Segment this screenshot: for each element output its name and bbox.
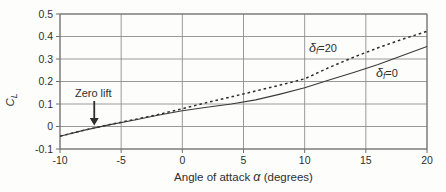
y-tick-label: 0 (47, 120, 53, 132)
y-tick-label: 0.5 (38, 8, 53, 20)
x-tick-label: 10 (299, 154, 311, 166)
y-tick-label: 0.2 (38, 75, 53, 87)
lift-curve-chart: -0.100.10.20.30.40.5-10-505101520δf=20δf… (0, 0, 446, 192)
y-tick-label: 0.1 (38, 98, 53, 110)
x-tick-label: 20 (421, 154, 433, 166)
x-tick-label: 5 (241, 154, 247, 166)
y-tick-label: 0.4 (38, 30, 53, 42)
y-tick-label: -0.1 (35, 143, 53, 155)
lift-coefficient-figure: -0.100.10.20.30.40.5-10-505101520δf=20δf… (0, 0, 446, 192)
x-tick-label: -10 (52, 154, 67, 166)
x-tick-label: 0 (179, 154, 185, 166)
x-axis-title: Angle of attack α (degrees) (174, 170, 313, 184)
series-label-flaps-0: δf=0 (376, 66, 398, 81)
zero-lift-label: Zero lift (75, 87, 112, 99)
x-tick-label: -5 (116, 154, 125, 166)
x-tick-label: 15 (360, 154, 372, 166)
series-label-flaps-20: δf=20 (309, 41, 337, 56)
y-tick-label: 0.3 (38, 53, 53, 65)
